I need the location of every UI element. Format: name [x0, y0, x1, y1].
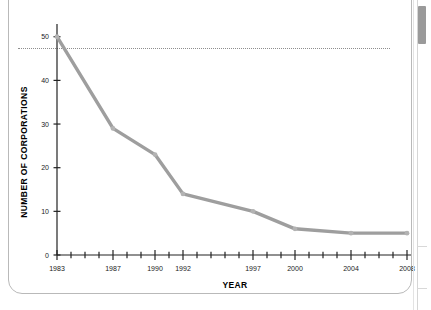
x-axis-ticks: 19831987199019921997200020042008 [49, 250, 415, 272]
line-chart: NUMBER OF CORPORATIONS YEAR 01020304050 … [0, 0, 431, 310]
y-tick-label: 0 [45, 252, 49, 259]
x-tick-label: 2004 [343, 265, 359, 272]
scrollbar-divider [413, 0, 414, 310]
data-series-line [57, 37, 407, 233]
y-tick-label: 50 [41, 33, 49, 40]
data-point [251, 209, 256, 214]
data-point [55, 34, 60, 39]
x-tick-label: 1990 [147, 265, 163, 272]
y-tick-label: 20 [41, 164, 49, 171]
scrollbar-mark-upper [417, 246, 427, 247]
vertical-scrollbar-track[interactable] [417, 0, 427, 310]
data-point [349, 231, 354, 236]
x-tick-label: 1983 [49, 265, 65, 272]
x-tick-label: 1987 [105, 265, 121, 272]
y-tick-label: 30 [41, 121, 49, 128]
x-tick-label: 2000 [287, 265, 303, 272]
data-point [181, 191, 186, 196]
y-tick-label: 10 [41, 208, 49, 215]
data-point [293, 226, 298, 231]
y-axis-title: NUMBER OF CORPORATIONS [19, 86, 29, 217]
data-point [153, 152, 158, 157]
vertical-scrollbar-thumb[interactable] [418, 6, 426, 44]
x-tick-label: 1992 [175, 265, 191, 272]
x-axis-title: YEAR [222, 280, 247, 290]
chart-svg: NUMBER OF CORPORATIONS YEAR 01020304050 … [0, 0, 431, 310]
page-root: NUMBER OF CORPORATIONS YEAR 01020304050 … [0, 0, 431, 310]
scrollbar-mark-lower [417, 288, 427, 289]
data-point [405, 231, 410, 236]
x-tick-label: 1997 [245, 265, 261, 272]
y-tick-label: 40 [41, 77, 49, 84]
data-point [111, 126, 116, 131]
y-axis-ticks: 01020304050 [41, 33, 60, 258]
